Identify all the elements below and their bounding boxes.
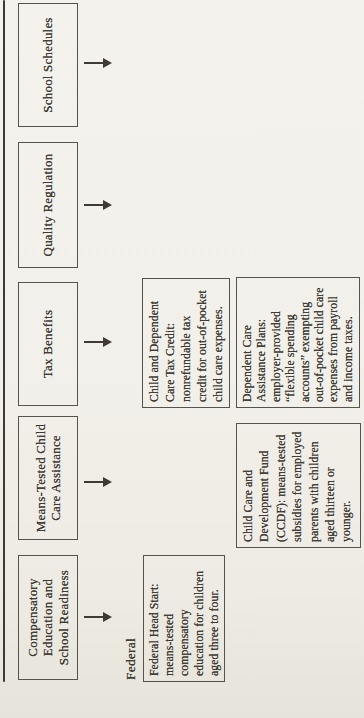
- header-box-means-tested-child-care: Means-Tested Child Care Assistance: [18, 416, 78, 540]
- arrow-head-icon: [103, 612, 112, 622]
- flow-arrow-quality-regulation: [84, 199, 112, 211]
- flow-arrow-compensatory: [84, 611, 112, 623]
- header-box-tax-benefits: Tax Benefits: [18, 282, 78, 406]
- policy-diagram-canvas: Compensatory Education and School Readin…: [0, 0, 364, 718]
- detail-box-federal-head-start: Federal Head Start: means-tested compens…: [143, 555, 225, 682]
- header-box-compensatory-education: Compensatory Education and School Readin…: [18, 555, 78, 680]
- arrow-shaft: [84, 204, 103, 206]
- arrow-head-icon: [103, 477, 112, 487]
- flow-arrow-tax-benefits: [84, 336, 112, 348]
- figure-top-rule: [3, 0, 5, 682]
- header-box-school-schedules: School Schedules: [18, 3, 78, 127]
- arrow-shaft: [84, 62, 103, 64]
- arrow-head-icon: [103, 337, 112, 347]
- arrow-shaft: [84, 341, 103, 343]
- detail-box-ccdf: Child Care and Development Fund (CCDF): …: [236, 423, 361, 548]
- arrow-head-icon: [103, 200, 112, 210]
- arrow-head-icon: [103, 58, 112, 68]
- scanned-book-page: Compensatory Education and School Readin…: [0, 0, 364, 718]
- header-box-quality-regulation: Quality Regulation: [18, 142, 78, 268]
- flow-arrow-means-tested: [84, 476, 112, 488]
- flow-arrow-school-schedules: [84, 57, 112, 69]
- detail-box-dependent-care-assistance-plans: Dependent Care Assistance Plans: employe…: [236, 277, 360, 408]
- arrow-shaft: [84, 616, 103, 618]
- detail-box-dependent-care-tax-credit: Child and Dependent Care Tax Credit: non…: [142, 278, 230, 408]
- arrow-shaft: [84, 481, 103, 483]
- row-label-federal: Federal: [123, 638, 139, 680]
